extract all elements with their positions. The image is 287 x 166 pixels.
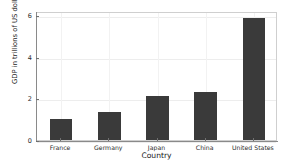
x-axis-spine [36, 141, 278, 142]
y-axis-tick-labels: 0246 [0, 12, 32, 141]
gridline-horizontal [37, 142, 276, 143]
y-axis-tick-label: 2 [28, 96, 32, 103]
x-axis-tick-label: Japan [148, 145, 165, 151]
bar-germany [98, 112, 121, 140]
y-axis-tick-mark [36, 58, 39, 59]
x-axis-tick-mark [108, 138, 109, 141]
x-axis-tick-label: Germany [94, 145, 122, 151]
plot-area [36, 12, 277, 141]
bar-chart-figure: GDP in trillions of US dollars 0246 Coun… [0, 0, 287, 166]
x-axis-tick-mark [205, 138, 206, 141]
bar-china [194, 92, 217, 140]
gridline-horizontal [37, 59, 276, 60]
bar-france [50, 119, 73, 140]
x-axis-tick-mark [157, 138, 158, 141]
x-axis-tick-label: France [50, 145, 71, 151]
y-axis-tick-mark [36, 141, 39, 142]
x-axis-tick-label: United States [232, 145, 274, 151]
y-axis-tick-mark [36, 99, 39, 100]
x-axis-tick-label: China [196, 145, 214, 151]
x-axis-tick-mark [253, 138, 254, 141]
x-axis-title: Country [36, 152, 277, 160]
gridline-horizontal [37, 17, 276, 18]
x-axis-tick-mark [60, 138, 61, 141]
y-axis-tick-label: 6 [28, 13, 32, 20]
bar-united-states [243, 18, 266, 140]
y-axis-tick-label: 0 [28, 138, 32, 145]
bar-japan [146, 96, 169, 140]
y-axis-tick-label: 4 [28, 55, 32, 62]
y-axis-spine [36, 12, 37, 142]
y-axis-tick-mark [36, 16, 39, 17]
